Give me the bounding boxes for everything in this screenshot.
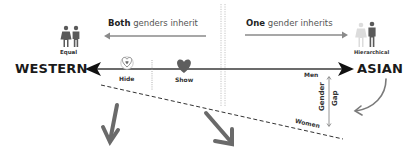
show-heart-icon xyxy=(177,60,191,74)
asian-label: ASIAN xyxy=(357,61,403,76)
hierarchical-label: Hierarchical xyxy=(354,49,389,55)
one-inherits-arrow xyxy=(245,32,348,39)
diagram-canvas xyxy=(0,0,413,152)
down-right-arrow xyxy=(206,113,232,144)
hide-label: Hide xyxy=(119,75,134,82)
equal-people-icon xyxy=(61,26,80,47)
both-inherit-rest: genders inherit xyxy=(130,18,198,28)
hide-heart-icon xyxy=(121,57,133,69)
both-inherit-arrow xyxy=(104,33,206,40)
both-inherit-bold: Both xyxy=(108,18,130,28)
hierarchical-people-icon xyxy=(355,22,375,47)
one-inherits-bold: One xyxy=(246,18,265,28)
men-label: Men xyxy=(304,71,318,78)
gender-gap-label: Gender Gap xyxy=(318,82,339,111)
gender-gap-word-2: Gap xyxy=(331,82,339,111)
both-inherit-caption: Both genders inherit xyxy=(108,18,198,28)
one-inherits-rest: gender inherits xyxy=(265,18,333,28)
one-inherits-caption: One gender inherits xyxy=(246,18,333,28)
gender-gap-word-1: Gender xyxy=(318,82,326,111)
curved-arrow xyxy=(355,79,386,115)
show-label: Show xyxy=(175,76,193,83)
western-label: WESTERN xyxy=(15,61,88,76)
center-divider xyxy=(221,4,225,106)
equal-label: Equal xyxy=(60,49,77,55)
down-arrow xyxy=(103,105,118,142)
